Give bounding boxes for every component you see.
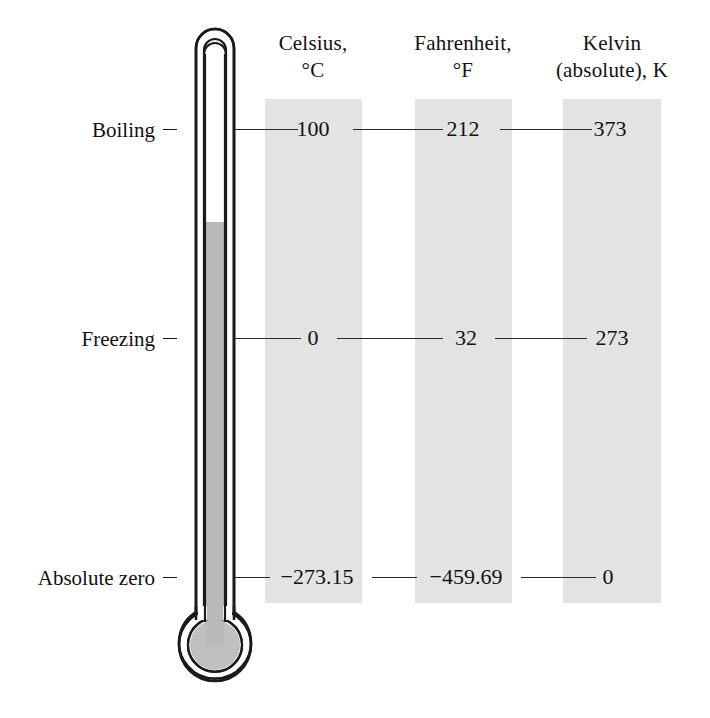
column-header-kelvin-line1: Kelvin (517, 30, 707, 57)
value-boiling-fahrenheit: 212 (433, 118, 493, 140)
value-freezing-kelvin: 273 (582, 327, 642, 349)
value-boiling-kelvin: 373 (580, 118, 640, 140)
value-freezing-fahrenheit: 32 (441, 327, 491, 349)
temperature-scales-figure: Celsius, °C Fahrenheit, °F Kelvin (absol… (0, 0, 710, 718)
value-boiling-celsius: 100 (283, 118, 343, 140)
column-band-fahrenheit (415, 99, 512, 603)
connector-freezing-b (337, 338, 443, 339)
connector-freezing-c (495, 338, 587, 339)
value-freezing-celsius: 0 (291, 327, 335, 349)
row-label-freezing: Freezing (0, 329, 155, 350)
row-label-absolute-zero: Absolute zero (0, 568, 155, 589)
thermometer-mercury-column (206, 222, 224, 647)
row-label-boiling: Boiling (0, 120, 155, 141)
thermometer-stem-bulb-mercury-junction (207, 606, 223, 620)
thermometer-graphic (150, 20, 280, 710)
connector-boiling-c (500, 129, 592, 130)
value-absolute-zero-kelvin: 0 (588, 566, 628, 588)
connector-boiling-b (353, 129, 443, 130)
value-absolute-zero-fahrenheit: −459.69 (410, 566, 522, 588)
connector-absolute-zero-c (521, 577, 596, 578)
column-header-kelvin: Kelvin (absolute), K (517, 30, 707, 84)
thermometer-empty-stem (206, 54, 224, 222)
column-band-kelvin (563, 99, 661, 603)
column-header-kelvin-line2: (absolute), K (517, 57, 707, 84)
